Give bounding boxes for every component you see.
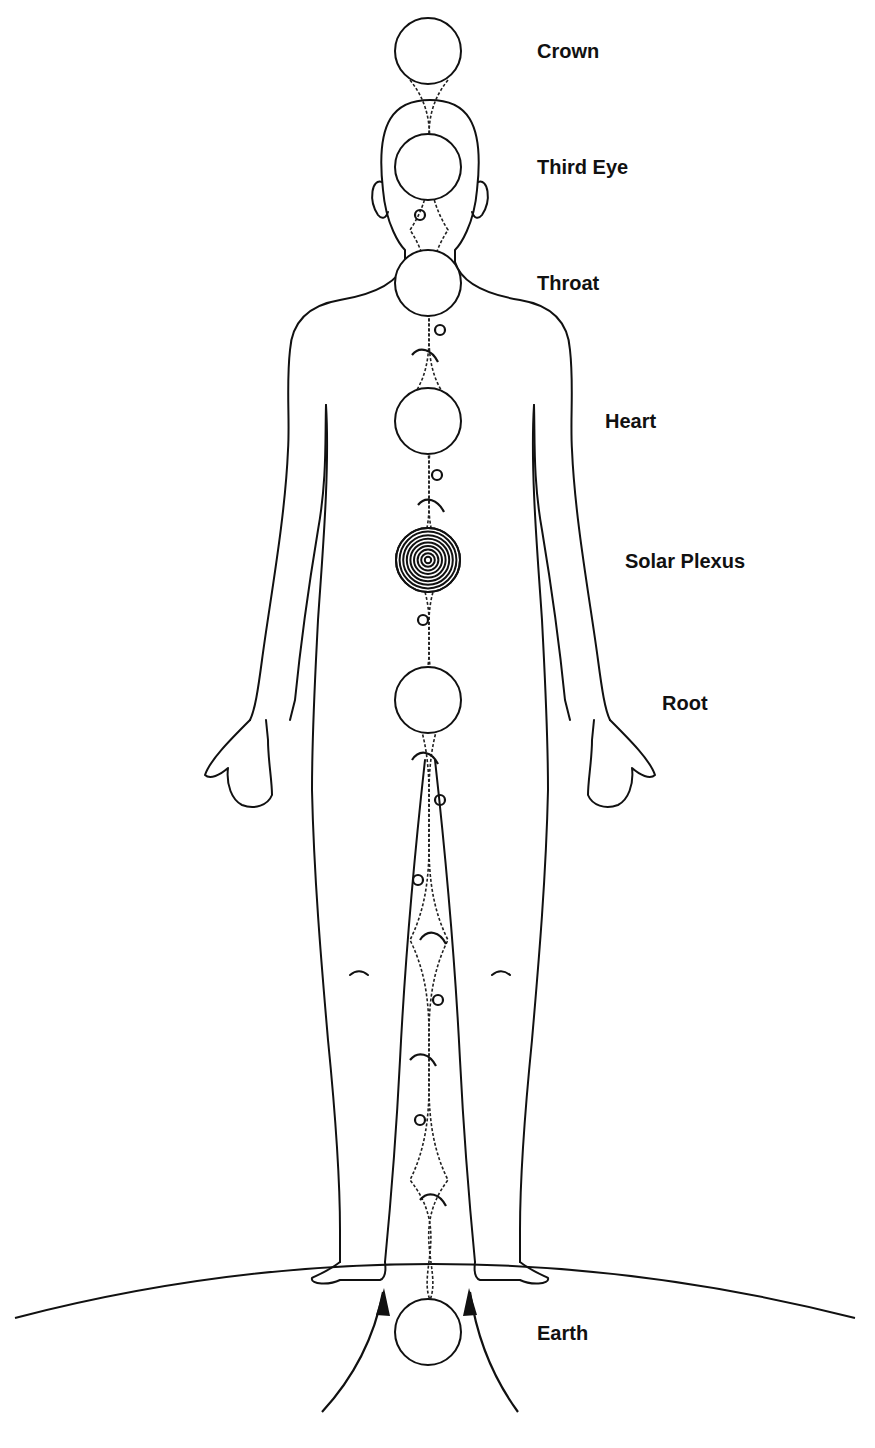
energy-arrow-right <box>470 1292 518 1412</box>
chakra-crown <box>395 18 461 84</box>
chakra-circles <box>395 18 461 1365</box>
chakra-heart <box>395 388 461 454</box>
chakra-diagram <box>0 0 875 1448</box>
chakra-root <box>395 667 461 733</box>
chakra-label-solar-plexus: Solar Plexus <box>625 550 745 573</box>
arrowhead-right-icon <box>463 1288 477 1316</box>
energy-arrow-left <box>322 1292 383 1412</box>
chakra-throat <box>395 250 461 316</box>
chakra-solar-plexus <box>396 528 460 592</box>
chakra-label-third-eye: Third Eye <box>537 156 628 179</box>
chakra-label-heart: Heart <box>605 410 656 433</box>
chakra-label-crown: Crown <box>537 40 599 63</box>
chakra-third-eye <box>395 134 461 200</box>
chakra-label-earth: Earth <box>537 1322 588 1345</box>
chakra-earth <box>395 1299 461 1365</box>
arrowhead-left-icon <box>376 1288 390 1316</box>
chakra-label-root: Root <box>662 692 708 715</box>
chakra-label-throat: Throat <box>537 272 599 295</box>
